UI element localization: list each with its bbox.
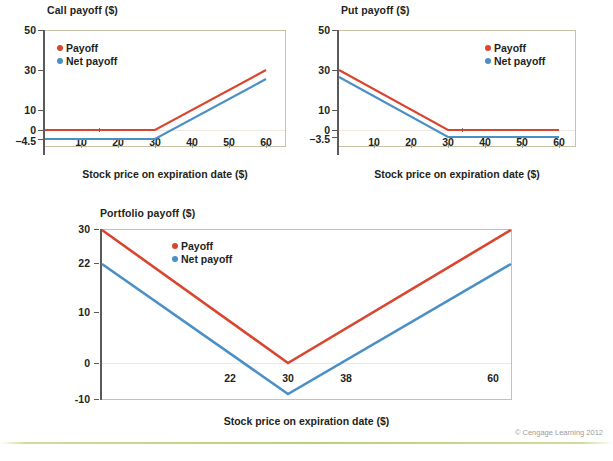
chart-put-legend: Payoff Net payoff (485, 41, 545, 67)
chart-call-series-payoff (45, 70, 266, 130)
legend-dot-payoff-icon (485, 45, 491, 51)
legend-item-payoff: Payoff (172, 239, 232, 252)
chart-put-x-axis-title: Stock price on expiration date ($) (338, 168, 576, 180)
legend-dot-net-payoff-icon (172, 256, 178, 262)
footer-divider (0, 442, 613, 444)
legend-item-net-payoff: Net payoff (57, 54, 117, 67)
chart-portfolio-legend: Payoff Net payoff (172, 239, 232, 265)
chart-call-legend: Payoff Net payoff (57, 41, 117, 67)
legend-label-net-payoff: Net payoff (181, 253, 232, 265)
chart-portfolio-payoff: Portfolio payoff ($) 30 22 10 0 -10 22 3… (0, 200, 613, 440)
chart-portfolio-x-axis-title: Stock price on expiration date ($) (101, 415, 512, 427)
legend-item-payoff: Payoff (485, 41, 545, 54)
legend-label-payoff: Payoff (66, 42, 98, 54)
legend-item-net-payoff: Net payoff (485, 54, 545, 67)
legend-label-payoff: Payoff (181, 240, 213, 252)
legend-dot-net-payoff-icon (57, 58, 63, 64)
chart-put-series-net-payoff (339, 77, 559, 137)
chart-put-series-payoff (339, 70, 559, 130)
legend-label-net-payoff: Net payoff (66, 55, 117, 67)
chart-portfolio-series-layer (0, 200, 613, 440)
chart-portfolio-series-net-payoff (102, 264, 511, 394)
legend-item-payoff: Payoff (57, 41, 117, 54)
legend-dot-net-payoff-icon (485, 58, 491, 64)
chart-call-x-axis-title: Stock price on expiration date ($) (44, 168, 286, 180)
legend-label-net-payoff: Net payoff (494, 55, 545, 67)
legend-dot-payoff-icon (57, 45, 63, 51)
chart-portfolio-series-payoff (102, 230, 511, 363)
chart-call-payoff: Call payoff ($) 50 30 10 0 −4.5 10 20 30… (0, 0, 300, 200)
chart-put-payoff: Put payoff ($) 50 30 10 0 −3.5 10 20 30 … (300, 0, 613, 200)
legend-dot-payoff-icon (172, 243, 178, 249)
legend-label-payoff: Payoff (494, 42, 526, 54)
copyright-notice: © Cengage Learning 2012 (515, 428, 603, 437)
figure-container: Call payoff ($) 50 30 10 0 −4.5 10 20 30… (0, 0, 613, 461)
legend-item-net-payoff: Net payoff (172, 252, 232, 265)
